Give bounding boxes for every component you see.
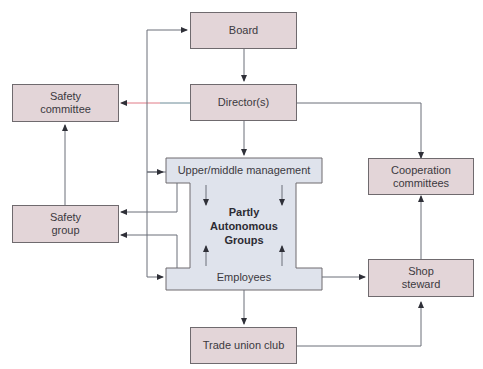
upper-middle-management-label: Upper/middle management (166, 164, 322, 176)
employees-label: Employees (166, 271, 322, 283)
trade-union-club-label: Trade union club (203, 339, 285, 352)
board-label: Board (229, 24, 258, 37)
trade-union-club-box: Trade union club (190, 327, 297, 364)
shop-steward-box: Shop steward (368, 259, 474, 297)
directors-label: Director(s) (218, 96, 269, 109)
safety-committee-label: Safety committee (40, 90, 91, 116)
safety-committee-box: Safety committee (12, 84, 119, 122)
partly-autonomous-groups-label: Partly Autonomous Groups (196, 205, 292, 247)
safety-group-label: Safety group (50, 211, 81, 237)
organization-diagram: Board Director(s) Safety committee Coope… (0, 0, 483, 369)
directors-box: Director(s) (190, 84, 297, 121)
board-box: Board (190, 12, 297, 49)
cooperation-committees-box: Cooperation committees (368, 158, 474, 195)
cooperation-committees-label: Cooperation committees (391, 164, 451, 190)
shop-steward-label: Shop steward (402, 265, 441, 291)
safety-group-box: Safety group (12, 205, 119, 243)
